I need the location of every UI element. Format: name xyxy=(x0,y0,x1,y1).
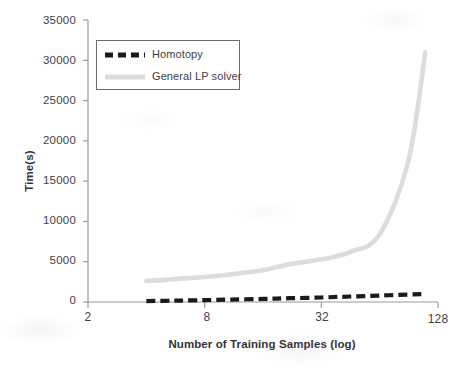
x-tick-label: 128 xyxy=(418,312,458,326)
y-axis-title: Time(s) xyxy=(23,136,35,206)
y-axis-tick-marks xyxy=(83,20,88,302)
legend-swatch-general-lp-solver xyxy=(104,72,146,82)
y-tick-label: 0 xyxy=(20,294,76,306)
y-tick-label: 10000 xyxy=(20,214,76,226)
x-axis-tick-marks xyxy=(88,302,438,308)
y-tick-label: 5000 xyxy=(20,254,76,266)
x-tick-label: 32 xyxy=(302,310,342,324)
legend-swatch-homotopy xyxy=(104,50,146,60)
x-tick-label: 2 xyxy=(68,310,108,324)
chart-figure: 35000 30000 25000 20000 15000 10000 5000… xyxy=(0,0,462,365)
legend-label-general-lp-solver: General LP solver xyxy=(152,70,242,82)
y-tick-label: 25000 xyxy=(20,94,76,106)
x-axis-title: Number of Training Samples (log) xyxy=(112,338,412,350)
series-line-homotopy xyxy=(146,294,425,301)
legend-label-homotopy: Homotopy xyxy=(152,48,203,60)
y-tick-label: 35000 xyxy=(20,14,76,26)
y-tick-label: 30000 xyxy=(20,54,76,66)
x-tick-label: 8 xyxy=(187,310,227,324)
